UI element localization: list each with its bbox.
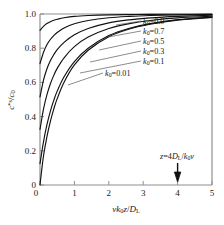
y-tick-label-4: 0.8	[25, 43, 37, 53]
x-tick-label-1: 1	[72, 188, 77, 198]
x-tick-label-5: 5	[210, 188, 215, 198]
x-axis-title: vk0z/DL	[112, 204, 140, 214]
curve-label-k0-0.1: k0=0.1	[143, 57, 164, 66]
x-axis-title-Dsub: L	[136, 207, 140, 214]
y-tick-label-5: 1.0	[25, 9, 37, 19]
x-tick-label-3: 3	[141, 188, 146, 198]
x-tick-label-2: 2	[107, 188, 112, 198]
y-axis-title-c2sub: 0	[9, 90, 16, 93]
x-tick-label-4: 4	[175, 188, 180, 198]
curve-label-k0-0.5: k0=0.5	[143, 37, 164, 46]
curve-label-k0-0.7: k0=0.7	[143, 27, 164, 36]
y-tick-label-1: 0.2	[25, 146, 36, 156]
line-chart: 0 0.2 0.4 0.6 0.8 1.0 0 1 2 3 4 5 vk0z	[0, 0, 224, 225]
chart-figure: 0 0.2 0.4 0.6 0.8 1.0 0 1 2 3 4 5 vk0z	[0, 0, 224, 225]
y-tick-label-3: 0.6	[25, 77, 37, 87]
curve-label-k0-0.3: k0=0.3	[143, 47, 164, 56]
x-tick-label-0: 0	[34, 188, 39, 198]
curve-label-k0-0.9: k0=0.9	[143, 17, 164, 26]
y-tick-label-2: 0.4	[25, 112, 37, 122]
